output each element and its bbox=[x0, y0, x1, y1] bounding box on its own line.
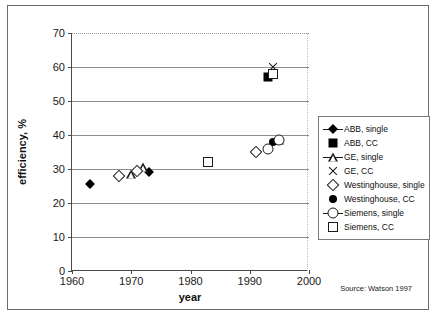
x-tick-label-1980: 1980 bbox=[178, 276, 202, 287]
x-tick-label-2000: 2000 bbox=[297, 276, 321, 287]
gridline-y-50 bbox=[72, 101, 309, 102]
marker-open-diamond-icon bbox=[249, 146, 262, 159]
y-tick-label-50: 50 bbox=[53, 96, 65, 107]
y-tick-mark-50 bbox=[68, 101, 72, 102]
legend-marker-open-triangle-icon bbox=[322, 150, 344, 164]
legend-marker-filled-circle-icon bbox=[322, 192, 344, 206]
legend-symbol-glyph bbox=[329, 139, 338, 148]
x-tick-mark-2000 bbox=[309, 270, 310, 274]
legend-symbol-glyph bbox=[328, 124, 338, 134]
x-tick-mark-1980 bbox=[191, 270, 192, 274]
gridline-y-20 bbox=[72, 203, 309, 204]
legend-marker-filled-diamond-icon bbox=[322, 122, 344, 136]
legend-label: GE, single bbox=[344, 153, 383, 162]
y-tick-mark-70 bbox=[68, 33, 72, 34]
marker-open-square-icon bbox=[268, 69, 278, 79]
plot-right-edge bbox=[307, 33, 308, 271]
legend-symbol-glyph bbox=[328, 153, 338, 162]
legend-label: Westinghouse, CC bbox=[344, 195, 415, 204]
legend-label: Siemens, CC bbox=[344, 223, 394, 232]
legend-label: GE, CC bbox=[344, 167, 373, 176]
gridline-y-30 bbox=[72, 169, 309, 170]
x-tick-label-1990: 1990 bbox=[238, 276, 262, 287]
legend-label: Westinghouse, single bbox=[344, 181, 425, 190]
y-tick-mark-10 bbox=[68, 237, 72, 238]
legend-symbol-glyph bbox=[329, 195, 337, 203]
x-tick-label-1970: 1970 bbox=[119, 276, 143, 287]
legend-label: Siemens, single bbox=[344, 209, 404, 218]
legend-symbol-glyph bbox=[328, 222, 338, 232]
legend-marker-open-square-icon bbox=[322, 220, 344, 234]
legend-marker-filled-square-icon bbox=[322, 136, 344, 150]
figure-border: efficiency, % year 010203040506070 19601… bbox=[7, 5, 429, 310]
y-tick-mark-20 bbox=[68, 203, 72, 204]
y-tick-label-40: 40 bbox=[53, 130, 65, 141]
legend: ABB, singleABB, CCGE, singleGE, CCWestin… bbox=[318, 116, 430, 240]
y-tick-label-70: 70 bbox=[53, 28, 65, 39]
marker-open-circle-icon bbox=[274, 135, 285, 146]
y-tick-mark-30 bbox=[68, 169, 72, 170]
legend-label: ABB, single bbox=[344, 125, 388, 134]
legend-symbol-glyph bbox=[328, 208, 339, 219]
x-tick-mark-1990 bbox=[250, 270, 251, 274]
legend-marker-open-circle-icon bbox=[322, 206, 344, 220]
legend-item-ge-single[interactable]: GE, single bbox=[322, 150, 425, 164]
legend-item-westinghouse-cc[interactable]: Westinghouse, CC bbox=[322, 192, 425, 206]
figure-chart-efficiency: efficiency, % year 010203040506070 19601… bbox=[0, 0, 437, 319]
y-tick-mark-40 bbox=[68, 135, 72, 136]
legend-item-siemens-single[interactable]: Siemens, single bbox=[322, 206, 425, 220]
plot-area: 010203040506070 19601970198019902000 bbox=[71, 33, 308, 271]
y-tick-label-60: 60 bbox=[53, 62, 65, 73]
y-tick-label-20: 20 bbox=[53, 198, 65, 209]
y-axis-title: efficiency, % bbox=[16, 119, 28, 185]
y-tick-mark-60 bbox=[68, 67, 72, 68]
x-tick-label-1960: 1960 bbox=[60, 276, 84, 287]
gridline-y-70 bbox=[72, 33, 309, 34]
legend-marker-x-cross-icon bbox=[322, 164, 344, 178]
marker-open-square-icon bbox=[203, 157, 213, 167]
legend-symbol-glyph bbox=[328, 166, 339, 177]
legend-marker-open-diamond-icon bbox=[322, 178, 344, 192]
gridline-y-10 bbox=[72, 237, 309, 238]
x-tick-mark-1960 bbox=[72, 270, 73, 274]
x-axis-title: year bbox=[179, 291, 202, 303]
legend-item-abb-cc[interactable]: ABB, CC bbox=[322, 136, 425, 150]
marker-open-diamond-icon bbox=[113, 169, 126, 182]
legend-item-ge-cc[interactable]: GE, CC bbox=[322, 164, 425, 178]
legend-item-siemens-cc[interactable]: Siemens, CC bbox=[322, 220, 425, 234]
y-tick-label-30: 30 bbox=[53, 164, 65, 175]
x-tick-mark-1970 bbox=[131, 270, 132, 274]
legend-label: ABB, CC bbox=[344, 139, 378, 148]
legend-item-abb-single[interactable]: ABB, single bbox=[322, 122, 425, 136]
y-tick-label-10: 10 bbox=[53, 232, 65, 243]
marker-open-circle-icon bbox=[262, 143, 273, 154]
marker-filled-diamond-icon bbox=[85, 179, 95, 189]
legend-item-westinghouse-single[interactable]: Westinghouse, single bbox=[322, 178, 425, 192]
source-note: Source: Watson 1997 bbox=[340, 284, 412, 293]
legend-symbol-glyph bbox=[327, 179, 340, 192]
